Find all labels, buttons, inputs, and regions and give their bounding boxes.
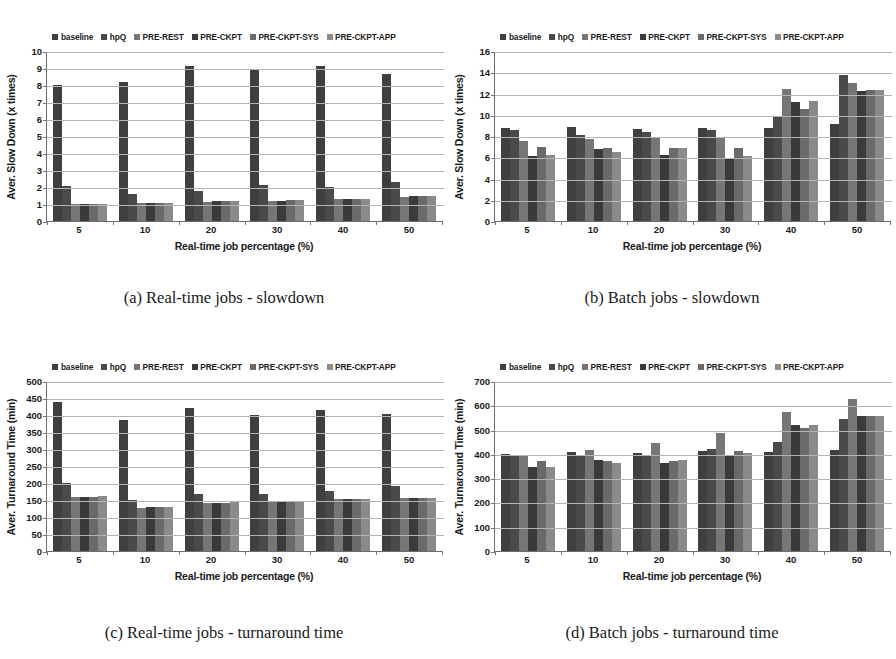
caption-b: (b) Batch jobs - slowdown [448,288,896,308]
bar [633,129,642,221]
bar [528,156,537,221]
y-tick-mark [491,406,495,407]
y-tick-label: 2 [485,196,490,206]
legend-item-pre-ckpt-app: PRE-CKPT-APP [775,362,844,372]
y-tick-mark [43,433,47,434]
bar [791,425,800,551]
legend-swatch-icon [134,364,140,370]
y-tick-mark [43,137,47,138]
legend-item-pre-rest: PRE-REST [134,32,184,42]
legend-item-pre-ckpt-sys: PRE-CKPT-SYS [250,362,319,372]
gridline [495,158,892,159]
legend-item-baseline: baseline [52,362,93,372]
bar [576,135,585,221]
y-tick-mark [491,201,495,202]
bar-group [758,382,824,551]
x-axis-label-a: Real-time job percentage (%) [46,240,442,252]
y-ticks-d: 0100200300400500600700 [466,382,492,552]
gridline [47,188,444,189]
legend-swatch-icon [250,364,256,370]
y-tick-label: 600 [474,402,490,412]
x-axis-label-d: Real-time job percentage (%) [494,570,890,582]
caption-a: (a) Real-time jobs - slowdown [0,288,448,308]
y-tick-label: 700 [474,377,490,387]
legend-swatch-icon [549,34,555,40]
bar [62,186,71,221]
legend-label: baseline [61,32,93,42]
x-tick-label: 5 [494,554,560,565]
y-tick-label: 500 [26,377,42,387]
bar [612,463,621,551]
legend-swatch-icon [327,34,333,40]
bar [510,130,519,221]
bar [651,443,660,551]
x-tick-label: 40 [310,224,376,235]
legend-label: hpQ [110,32,126,42]
y-tick-label: 300 [474,474,490,484]
bar [585,450,594,551]
bar [773,442,782,551]
bar [164,507,173,551]
bar [295,200,304,221]
gridline [495,95,892,96]
x-tick-label: 50 [376,554,442,565]
legend-item-pre-ckpt: PRE-CKPT [640,362,690,372]
bar [155,507,164,551]
legend-item-hpq: hpQ [549,362,574,372]
legend-label: hpQ [558,362,574,372]
y-tick-mark [43,501,47,502]
y-tick-mark [43,52,47,53]
y-axis-label-text-a: Aver. Slow Down (x times) [5,74,17,199]
x-tick-label: 30 [692,554,758,565]
x-tick-mark [442,551,443,555]
legend-label: baseline [509,32,541,42]
y-tick-label: 0 [485,547,490,557]
bar [875,416,884,552]
y-tick-mark [491,455,495,456]
legend-swatch-icon [192,34,198,40]
bar [537,461,546,551]
x-tick-label: 20 [178,224,244,235]
bar [418,196,427,221]
y-tick-mark [491,382,495,383]
y-tick-mark [491,528,495,529]
y-tick-mark [43,535,47,536]
x-tick-label: 20 [626,224,692,235]
x-ticks-a: 51020304050 [46,224,442,235]
y-tick-label: 3 [37,166,42,176]
bar [716,433,725,551]
gridline [495,479,892,480]
x-tick-label: 5 [46,554,112,565]
bar [809,101,818,221]
legend-label: PRE-CKPT [648,362,690,372]
plot-area-c [46,382,442,552]
bar [185,408,194,551]
bar [334,499,343,551]
x-tick-label: 10 [560,554,626,565]
y-tick-mark [43,171,47,172]
legend-item-pre-ckpt: PRE-CKPT [640,32,690,42]
x-tick-label: 10 [112,554,178,565]
bar [343,199,352,221]
bar [259,185,268,221]
legend-label: baseline [509,362,541,372]
y-tick-mark [491,158,495,159]
legend-swatch-icon [582,364,588,370]
legend-swatch-icon [698,364,704,370]
bar [194,494,203,551]
legend-swatch-icon [500,34,506,40]
y-tick-label: 250 [26,462,42,472]
bar [128,194,137,221]
y-tick-mark [491,73,495,74]
legend-item-pre-ckpt: PRE-CKPT [192,32,242,42]
legend-swatch-icon [698,34,704,40]
bar [400,498,409,551]
bar [80,204,89,221]
y-tick-mark [43,188,47,189]
legend-swatch-icon [775,34,781,40]
legend-swatch-icon [775,364,781,370]
gridline [47,120,444,121]
y-axis-label-text-d: Aver. Turnaround Time (min) [453,399,465,536]
y-tick-mark [43,120,47,121]
bar [660,463,669,551]
